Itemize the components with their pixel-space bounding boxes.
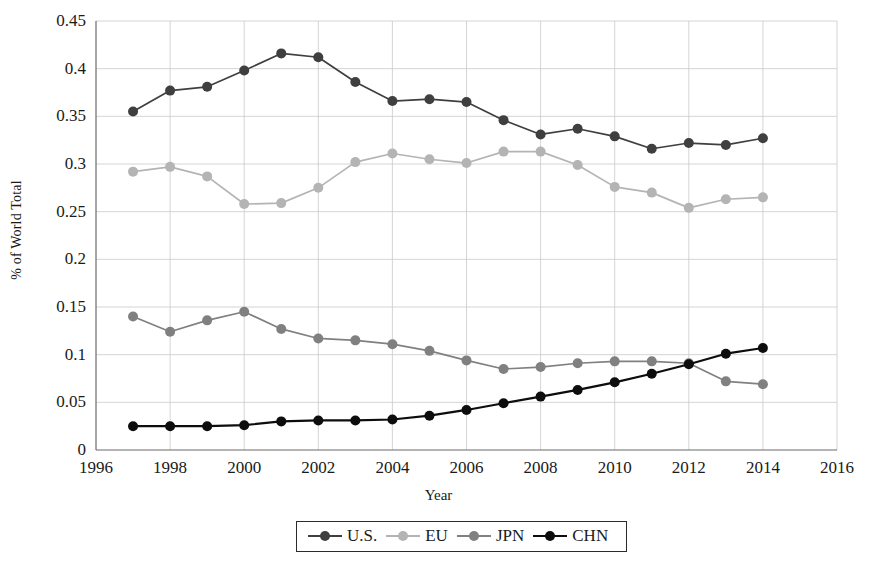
data-point	[536, 129, 546, 139]
legend-marker-icon	[386, 529, 420, 543]
data-point	[165, 86, 175, 96]
x-axis-title: Year	[0, 487, 877, 504]
data-point	[721, 194, 731, 204]
data-point	[536, 362, 546, 372]
data-point	[499, 364, 509, 374]
series-eu	[128, 147, 768, 213]
data-point	[350, 157, 360, 167]
data-point	[721, 140, 731, 150]
data-point	[684, 138, 694, 148]
series-line	[133, 348, 763, 426]
data-point	[573, 124, 583, 134]
data-point	[313, 52, 323, 62]
legend-item-chn[interactable]: CHN	[532, 526, 616, 546]
data-point	[499, 147, 509, 157]
data-point	[647, 144, 657, 154]
data-point	[387, 414, 397, 424]
data-point	[610, 182, 620, 192]
legend-dot-icon	[320, 531, 330, 541]
legend-marker-icon	[308, 529, 342, 543]
data-point	[128, 107, 138, 117]
data-point	[462, 355, 472, 365]
series-line	[133, 312, 763, 384]
data-point	[276, 324, 286, 334]
data-point	[387, 96, 397, 106]
legend-item-jpn[interactable]: JPN	[456, 526, 532, 546]
legend-marker-icon	[457, 529, 491, 543]
series-line	[133, 152, 763, 208]
legend-label: CHN	[567, 526, 615, 546]
data-point	[499, 115, 509, 125]
data-point	[202, 421, 212, 431]
data-point	[573, 385, 583, 395]
data-point	[610, 377, 620, 387]
data-point	[350, 77, 360, 87]
data-point	[387, 339, 397, 349]
chart-legend: U.S.EUJPNCHN	[296, 521, 627, 552]
data-point	[610, 131, 620, 141]
data-point	[647, 356, 657, 366]
data-point	[202, 315, 212, 325]
data-point	[239, 420, 249, 430]
data-point	[684, 359, 694, 369]
data-point	[239, 307, 249, 317]
data-point	[536, 147, 546, 157]
data-point	[350, 415, 360, 425]
data-point	[387, 149, 397, 159]
data-point	[128, 167, 138, 177]
legend-label: U.S.	[342, 526, 384, 546]
data-point	[239, 66, 249, 76]
legend-dot-icon	[398, 531, 408, 541]
data-point	[610, 356, 620, 366]
legend-marker-icon	[533, 529, 567, 543]
data-point	[276, 48, 286, 58]
data-point	[462, 97, 472, 107]
series-us	[128, 48, 768, 153]
data-point	[313, 183, 323, 193]
data-point	[313, 333, 323, 343]
data-point	[276, 198, 286, 208]
legend-item-eu[interactable]: EU	[385, 526, 456, 546]
data-point	[758, 133, 768, 143]
legend-dot-icon	[545, 531, 555, 541]
data-point	[424, 411, 434, 421]
data-point	[165, 327, 175, 337]
data-point	[239, 199, 249, 209]
line-chart: % of World Total 00.050.10.150.20.250.30…	[0, 0, 877, 571]
data-point	[721, 376, 731, 386]
data-point	[499, 398, 509, 408]
data-point	[202, 82, 212, 92]
data-point	[128, 421, 138, 431]
data-point	[462, 158, 472, 168]
data-point	[536, 392, 546, 402]
data-point	[573, 358, 583, 368]
data-point	[758, 343, 768, 353]
data-point	[647, 188, 657, 198]
data-point	[758, 379, 768, 389]
legend-label: EU	[420, 526, 455, 546]
data-point	[165, 421, 175, 431]
data-point	[128, 312, 138, 322]
data-point	[276, 416, 286, 426]
series-jpn	[128, 307, 768, 389]
plot-area	[0, 0, 877, 571]
data-point	[462, 405, 472, 415]
series-line	[133, 53, 763, 148]
data-point	[721, 349, 731, 359]
data-point	[424, 154, 434, 164]
legend-label: JPN	[491, 526, 531, 546]
data-point	[313, 415, 323, 425]
data-point	[573, 160, 583, 170]
legend-item-us[interactable]: U.S.	[307, 526, 385, 546]
data-point	[758, 192, 768, 202]
data-point	[647, 369, 657, 379]
data-point	[424, 346, 434, 356]
data-point	[165, 162, 175, 172]
data-point	[350, 335, 360, 345]
legend-dot-icon	[469, 531, 479, 541]
data-point	[202, 171, 212, 181]
data-point	[684, 203, 694, 213]
data-point	[424, 94, 434, 104]
